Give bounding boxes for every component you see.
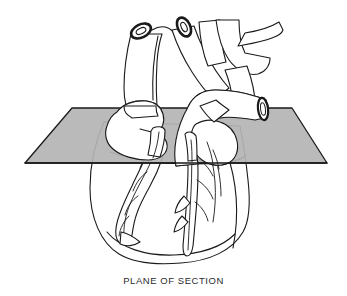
heart-plane-diagram: [0, 0, 347, 296]
svc-through-plane: [124, 106, 158, 118]
figure-root: PLANE OF SECTION: [0, 0, 347, 296]
figure-caption: PLANE OF SECTION: [0, 275, 347, 286]
